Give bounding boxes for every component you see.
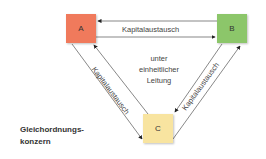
node-b-label: B — [229, 24, 234, 33]
node-c-label: C — [155, 124, 161, 133]
center-text-line-2: einheitlicher — [124, 64, 194, 75]
caption-line-2: konzern — [20, 136, 84, 148]
diagram-caption: Gleichordnungs- konzern — [20, 124, 84, 148]
node-c: C — [143, 114, 173, 143]
node-a-label: A — [78, 24, 83, 33]
caption-line-1: Gleichordnungs- — [20, 124, 84, 136]
edge-label-a-b: Kapitalaustausch — [122, 25, 179, 34]
center-text-line-3: Leitung — [124, 75, 194, 86]
node-b: B — [217, 14, 247, 43]
center-text: unter einheitlicher Leitung — [124, 53, 194, 86]
center-text-line-1: unter — [124, 53, 194, 64]
node-a: A — [66, 14, 96, 43]
